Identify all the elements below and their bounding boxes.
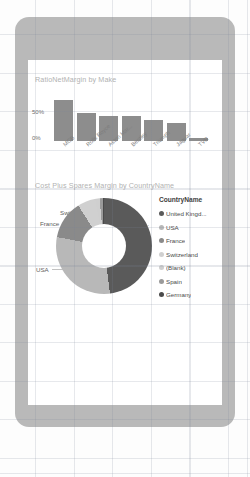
bar-y-tick-50: 50% xyxy=(32,109,44,115)
phone-frame: RatioNetMargin by Make 50% 0% MGBRolls R… xyxy=(15,17,235,427)
legend-swatch-icon xyxy=(159,211,164,216)
legend-swatch-icon xyxy=(159,292,164,297)
legend-item-3[interactable]: Switzerland xyxy=(159,248,221,262)
legend-swatch-icon xyxy=(159,265,164,270)
legend-swatch-icon xyxy=(159,225,164,230)
legend-item-4[interactable]: (Blank) xyxy=(159,261,221,275)
legend-item-1[interactable]: USA xyxy=(159,221,221,235)
bar-chart-card[interactable]: RatioNetMargin by Make 50% 0% MGBRolls R… xyxy=(28,70,222,180)
phone-screen: RatioNetMargin by Make 50% 0% MGBRolls R… xyxy=(28,60,222,405)
donut-legend: CountryName United Kingd...USAFranceSwit… xyxy=(159,196,221,302)
bar-x-axis: MGBRolls RoyceAston Mar...BentleyTriumph… xyxy=(54,143,214,173)
legend-swatch-icon xyxy=(159,279,164,284)
donut-graphic[interactable] xyxy=(56,198,152,294)
legend-item-0[interactable]: United Kingd... xyxy=(159,207,221,221)
bar-chart-title: RatioNetMargin by Make xyxy=(35,75,116,84)
legend-item-label: Spain xyxy=(166,278,182,285)
legend-item-5[interactable]: Spain xyxy=(159,275,221,289)
bar-y-tick-0: 0% xyxy=(32,135,41,141)
legend-item-label: United Kingd... xyxy=(166,210,207,217)
legend-item-label: (Blank) xyxy=(166,264,186,271)
legend-item-label: Switzerland xyxy=(166,251,198,258)
legend-item-6[interactable]: Germany xyxy=(159,288,221,302)
donut-chart-title: Cost Plus Spares Margin by CountryName xyxy=(35,181,174,190)
legend-swatch-icon xyxy=(159,238,164,243)
legend-item-label: Germany xyxy=(166,291,191,298)
donut-hole xyxy=(82,224,126,268)
legend-item-label: France xyxy=(166,237,185,244)
callout-usa: USA xyxy=(36,266,49,273)
donut-chart-card[interactable]: Cost Plus Spares Margin by CountryName S… xyxy=(28,176,222,326)
legend-item-2[interactable]: France xyxy=(159,234,221,248)
legend-item-label: USA xyxy=(166,224,179,231)
legend-swatch-icon xyxy=(159,252,164,257)
legend-title: CountryName xyxy=(159,196,221,203)
